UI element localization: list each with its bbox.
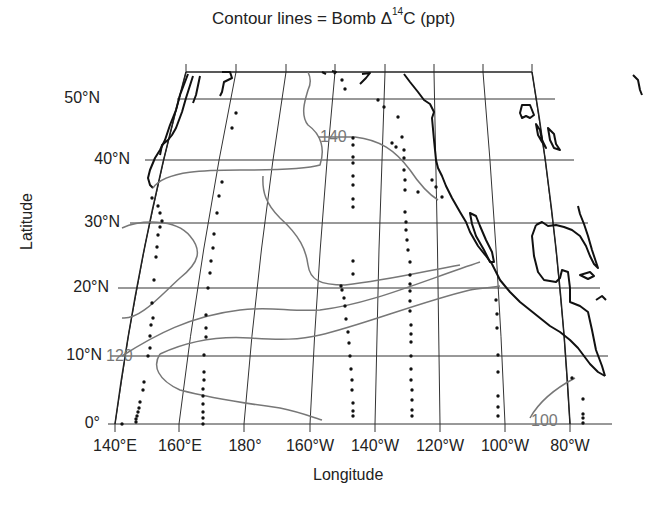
map-frame [115,72,570,424]
lon-gridlines [115,64,570,432]
contour-lines [122,72,575,420]
y-axis-title: Latitude [18,193,36,250]
ytick-50n: 50°N [40,89,100,107]
xtick-80w: 80°W [530,437,610,455]
x-axis-title: Longitude [313,466,383,484]
contour-label-120: 120 [106,347,133,365]
ytick-40n: 40°N [70,150,130,168]
contour-label-100: 100 [531,412,558,430]
contour-label-140: 140 [320,128,347,146]
map-plot [0,0,659,511]
ytick-20n: 20°N [49,278,109,296]
ytick-0: 0° [40,414,100,432]
ytick-30n: 30°N [60,213,120,231]
station-dots [120,78,584,425]
ytick-10n: 10°N [42,346,102,364]
